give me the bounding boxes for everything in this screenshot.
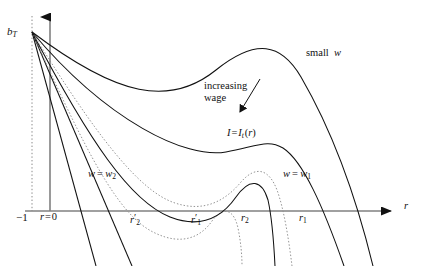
label-minus-one: −1 bbox=[16, 212, 28, 223]
figure-canvas: bT −1 r = 0 w = w2 r′2 r′1 r2 r1 w = w1 … bbox=[0, 0, 426, 266]
curve-group bbox=[32, 32, 373, 266]
label-r-prime-2: r′2 bbox=[130, 213, 140, 227]
label-r-2: r2 bbox=[241, 213, 249, 225]
label-w-equals-w2: w = w2 bbox=[88, 169, 116, 181]
small-w-text: small bbox=[306, 47, 329, 58]
label-r-1: r1 bbox=[299, 213, 307, 225]
r-axis-text: r bbox=[404, 200, 408, 211]
increasing-wage-line2: wage bbox=[204, 92, 226, 103]
curve-w2-straight bbox=[32, 32, 132, 266]
label-r-prime-1: r′1 bbox=[191, 213, 201, 227]
label-small-w: small w bbox=[306, 48, 341, 59]
label-increasing-wage: increasingwage bbox=[204, 80, 247, 104]
label-I-equals-It-r: I = It (r) bbox=[227, 128, 256, 140]
curve-w1-dotted bbox=[32, 32, 292, 266]
label-r-equals-zero: r = 0 bbox=[40, 212, 57, 223]
label-b-T: bT bbox=[7, 26, 17, 39]
plot-svg bbox=[0, 0, 426, 266]
label-w-equals-w1: w = w1 bbox=[283, 169, 311, 181]
curve-It-intermediate bbox=[32, 32, 344, 266]
label-r-axis: r bbox=[404, 201, 408, 212]
increasing-wage-line1: increasing bbox=[204, 80, 247, 91]
